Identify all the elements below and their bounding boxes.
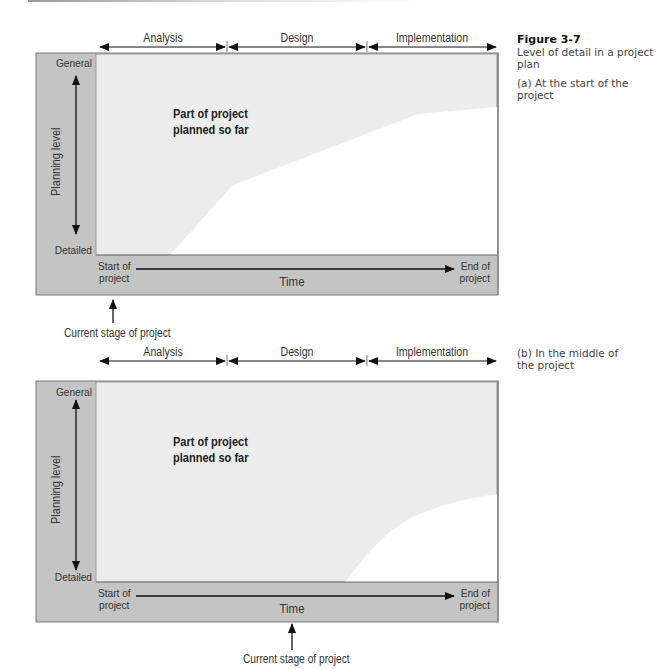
- diagram-b: Analysis Design Implementation General D…: [0, 328, 659, 669]
- x-axis-end-label-line2: project: [446, 599, 490, 612]
- current-stage-label: Current stage of project: [243, 652, 350, 666]
- x-axis-label: Time: [266, 601, 319, 616]
- y-axis-bottom-label: Detailed: [43, 571, 92, 584]
- planned-region-label-line1: Part of project: [173, 106, 248, 122]
- diagram-b-graphic: [0, 328, 659, 669]
- phase-design-label: Design: [236, 345, 357, 359]
- figure-caption: Figure 3-7 Level of detail in a project …: [517, 34, 657, 101]
- x-axis-start-label-line2: project: [99, 272, 129, 285]
- y-axis-label: Planning level: [49, 455, 63, 524]
- y-axis-top-label: General: [46, 386, 92, 399]
- x-axis-start-label-line2: project: [99, 599, 129, 612]
- planned-region-label-line2: planned so far: [173, 450, 249, 466]
- y-axis-top-label: General: [46, 57, 92, 70]
- planned-region-label-line2: planned so far: [173, 122, 249, 138]
- x-axis-end-label-line2: project: [446, 272, 490, 285]
- subfigure-a-caption: (a) At the start of the project: [517, 77, 657, 101]
- diagram-a: Analysis Design Implementation General D…: [0, 0, 659, 340]
- figure-title: Level of detail in a project plan: [517, 46, 657, 70]
- phase-implementation-label: Implementation: [376, 345, 489, 359]
- phase-analysis-label: Analysis: [108, 31, 219, 45]
- phase-design-label: Design: [236, 31, 357, 45]
- y-axis-label: Planning level: [49, 127, 63, 196]
- figure-number: Figure 3-7: [517, 34, 657, 46]
- planned-region-label-line1: Part of project: [173, 434, 248, 450]
- x-axis-label: Time: [266, 274, 319, 289]
- subfigure-b-caption: (b) In the middle of the project: [517, 347, 627, 371]
- phase-analysis-label: Analysis: [108, 345, 219, 359]
- phase-implementation-label: Implementation: [376, 31, 489, 45]
- y-axis-bottom-label: Detailed: [43, 244, 92, 257]
